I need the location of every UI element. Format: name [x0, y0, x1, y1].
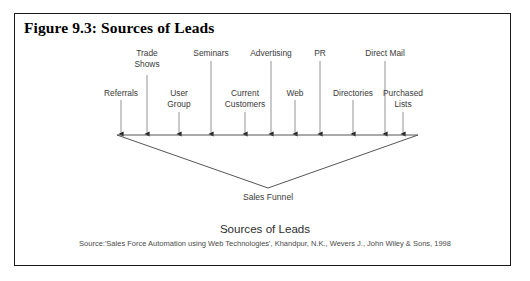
source-label: Direct Mail	[365, 48, 405, 59]
source-label: PurchasedLists	[383, 88, 423, 109]
funnel-caption-label: Sales Funnel	[243, 192, 293, 202]
source-label: Directories	[333, 88, 373, 99]
source-label: TradeShows	[134, 48, 159, 69]
source-label: Web	[286, 88, 303, 99]
figure-page: Figure 9.3: Sources of Leads ReferralsTr…	[0, 0, 530, 281]
page-title: Figure 9.3: Sources of Leads	[24, 19, 214, 37]
source-label: Referrals	[104, 88, 138, 99]
figure-source-citation: Source:'Sales Force Automation using Web…	[79, 239, 451, 248]
source-label: Advertising	[250, 48, 291, 59]
source-label: Seminars	[193, 48, 228, 59]
figure-caption-title: Sources of Leads	[220, 222, 310, 235]
source-label: CurrentCustomers	[225, 88, 266, 109]
source-label: UserGroup	[167, 88, 190, 109]
source-label: PR	[314, 48, 326, 59]
